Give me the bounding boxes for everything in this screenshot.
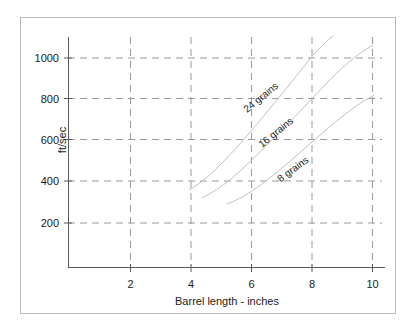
x-tick-label-4: 4 xyxy=(188,278,194,290)
y-tick-label-800: 800 xyxy=(41,93,59,105)
series-label-16-grains: 16 grains xyxy=(256,115,295,149)
x-tick-label-2: 2 xyxy=(127,278,133,290)
series-label-24-grains: 24 grains xyxy=(241,80,280,114)
x-tick-label-6: 6 xyxy=(248,278,254,290)
y-tick-label-1000: 1000 xyxy=(35,52,59,64)
x-axis-tick-labels: 2 4 6 8 10 xyxy=(127,278,378,290)
x-axis-title: Barrel length - inches xyxy=(175,295,279,307)
grid-horizontal xyxy=(68,58,382,223)
y-tick-label-200: 200 xyxy=(41,217,59,229)
x-tick-label-10: 10 xyxy=(366,278,378,290)
x-tick-label-8: 8 xyxy=(309,278,315,290)
series-labels: 24 grains 16 grains 8 grains xyxy=(241,80,310,184)
figure-root: 1000 800 600 400 200 2 4 6 8 10 Barrel l… xyxy=(0,0,415,332)
grid-vertical xyxy=(131,37,373,266)
curve-24-grains xyxy=(189,36,333,190)
axes xyxy=(68,37,385,268)
y-tick-label-400: 400 xyxy=(41,175,59,187)
barrel-velocity-chart: 1000 800 600 400 200 2 4 6 8 10 Barrel l… xyxy=(0,0,415,332)
y-axis-title: ft/sec xyxy=(56,126,68,153)
